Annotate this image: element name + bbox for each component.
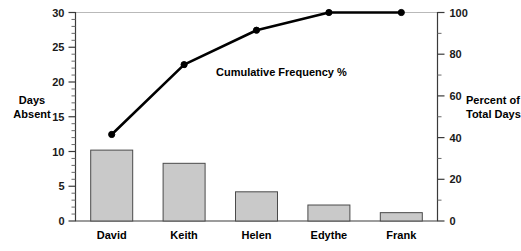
right-tick-label: 20 [450,173,462,185]
bar [308,205,350,221]
right-tick-label: 60 [450,90,462,102]
pareto-chart: 051015202530 020406080100 DavidKeithHele… [0,0,521,251]
bar [236,192,278,221]
chart-annotations: Cumulative Frequency % [216,66,347,78]
right-tick-label: 40 [450,132,462,144]
category-labels: DavidKeithHelenEdytheFrank [97,229,417,241]
right-axis-title-line2: Total Days [466,108,521,120]
left-tick-label: 0 [58,215,64,227]
series-annotation: Cumulative Frequency % [216,66,347,78]
bar-series [91,150,423,221]
cumulative-data-point [326,9,332,15]
right-tick-label: 0 [450,215,456,227]
category-label: Frank [386,229,417,241]
left-tick-label: 20 [52,76,64,88]
left-axis-ticks [69,13,76,222]
bar [380,213,422,221]
right-tick-label: 100 [450,7,468,19]
category-label: Helen [242,229,272,241]
left-tick-label: 5 [58,180,64,192]
left-axis-tick-labels: 051015202530 [52,7,64,228]
left-axis-title-line2: Absent [13,108,51,120]
category-label: Keith [170,229,198,241]
cumulative-data-point [398,9,404,15]
right-axis-title: Percent of Total Days [466,94,521,120]
category-label: David [97,229,127,241]
bar [163,163,205,221]
left-tick-label: 10 [52,146,64,158]
left-axis-title: Days Absent [13,94,51,120]
cumulative-data-point [181,62,187,68]
right-axis-title-line1: Percent of [466,94,520,106]
left-axis-title-line1: Days [19,94,45,106]
right-axis-ticks [438,13,445,222]
bar [91,150,133,221]
left-tick-label: 15 [52,111,64,123]
chart-canvas: 051015202530 020406080100 DavidKeithHele… [0,0,521,251]
cumulative-data-point [109,131,115,137]
right-tick-label: 80 [450,48,462,60]
cumulative-data-point [253,27,259,33]
left-tick-label: 25 [52,41,64,53]
left-tick-label: 30 [52,7,64,19]
category-label: Edythe [311,229,348,241]
